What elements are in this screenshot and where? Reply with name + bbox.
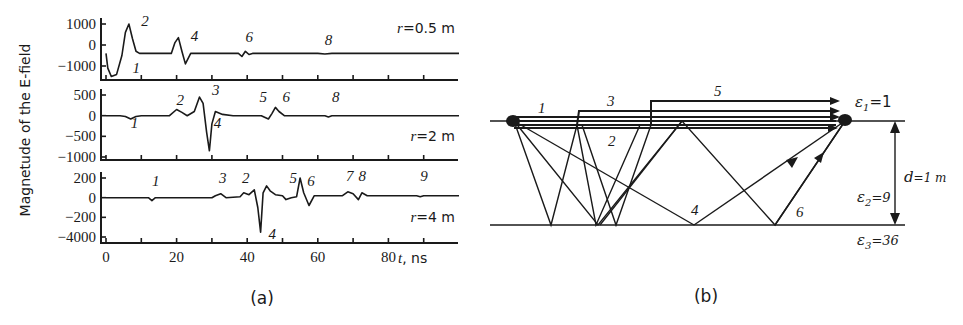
- subplot-2: 5000−500−10001234568r=2 m: [58, 82, 459, 165]
- y-tick-label: 0: [89, 37, 97, 53]
- horizontal-rays: [514, 101, 836, 128]
- receiver-antenna: [838, 114, 852, 126]
- peak-label-5: 5: [260, 89, 268, 105]
- source-antenna: [506, 115, 520, 127]
- ray-label-3: 3: [606, 93, 615, 109]
- y-axis-label: Magnetude of the E-field: [17, 44, 33, 217]
- distance-label: r=4 m: [410, 209, 455, 225]
- panel-a-caption: (a): [250, 288, 274, 308]
- thickness-label: d=1 m: [904, 168, 947, 186]
- x-tick-label: 0: [102, 249, 110, 265]
- ray-label-1: 1: [538, 100, 546, 116]
- y-tick-label: 0: [89, 108, 97, 124]
- peak-label-8: 8: [325, 32, 333, 48]
- peak-label-4: 4: [268, 226, 276, 242]
- peak-label-5: 5: [290, 170, 298, 186]
- peak-label-8: 8: [358, 168, 366, 184]
- peak-label-1: 1: [131, 115, 139, 131]
- y-tick-label: 1000: [66, 16, 96, 32]
- ray-label-6: 6: [796, 204, 804, 220]
- ray-arrowheads: [786, 152, 824, 168]
- y-tick-label: 200: [74, 170, 97, 186]
- ray-6-path: [775, 121, 845, 225]
- eps2-label: ε2=9: [857, 188, 891, 208]
- distance-label: r=2 m: [410, 128, 455, 144]
- x-tick-label: 60: [310, 249, 325, 265]
- distance-label: r=0.5 m: [397, 20, 455, 36]
- panel-a-waveforms: Magnetude of the E-field 10000−100012468…: [17, 13, 459, 308]
- peak-label-1: 1: [132, 60, 140, 76]
- y-tick-label: −200: [65, 209, 96, 225]
- ray-label-5: 5: [714, 83, 722, 99]
- x-axis-label: t, ns: [398, 250, 427, 266]
- x-tick-label: 20: [169, 249, 184, 265]
- peak-label-7: 7: [346, 168, 355, 184]
- x-axis-tick-labels: 020406080: [102, 249, 396, 265]
- arrowheads: [828, 97, 840, 132]
- subplot-3: 2000−200−4000132456789r=4 m: [58, 168, 459, 245]
- peak-label-6: 6: [307, 173, 315, 189]
- peak-label-4: 4: [214, 115, 222, 131]
- peak-label-6: 6: [245, 29, 253, 45]
- y-tick-label: −500: [65, 128, 96, 144]
- y-tick-label: −1000: [58, 149, 96, 165]
- peak-label-4: 4: [191, 28, 199, 44]
- axes-frame: [101, 89, 458, 160]
- x-tick-label: 80: [381, 249, 396, 265]
- x-tick-label: 40: [240, 249, 255, 265]
- eps1-label: ε1=1: [855, 93, 892, 113]
- eps3-label: ε3=36: [857, 231, 899, 251]
- subplot-1: 10000−100012468r=0.5 m: [58, 13, 459, 80]
- ray-label-2: 2: [608, 133, 616, 149]
- peak-label-6: 6: [283, 89, 291, 105]
- panel-b-caption: (b): [694, 286, 718, 306]
- peak-label-9: 9: [420, 168, 428, 184]
- x-axis-unit: , ns: [402, 250, 427, 266]
- y-tick-label: 0: [89, 190, 97, 206]
- ray-4-path: [694, 121, 845, 225]
- peak-label-2: 2: [177, 92, 185, 108]
- y-tick-label: −1000: [58, 58, 96, 74]
- thickness-dimension: [890, 121, 900, 225]
- peak-label-2: 2: [242, 170, 250, 186]
- peak-label-3: 3: [218, 170, 227, 186]
- peak-label-8: 8: [332, 89, 340, 105]
- panel-b-ray-diagram: 1 3 5 2 4 6 ε1=1 ε2=9 ε3=36 d=1 m (b): [490, 83, 947, 306]
- y-tick-label: 500: [74, 87, 97, 103]
- peak-label-2: 2: [141, 13, 149, 29]
- peak-label-1: 1: [152, 173, 160, 189]
- ray-label-4: 4: [691, 202, 699, 218]
- y-tick-label: −4000: [58, 229, 96, 245]
- peak-label-3: 3: [211, 82, 220, 98]
- figure-canvas: Magnetude of the E-field 10000−100012468…: [0, 0, 963, 325]
